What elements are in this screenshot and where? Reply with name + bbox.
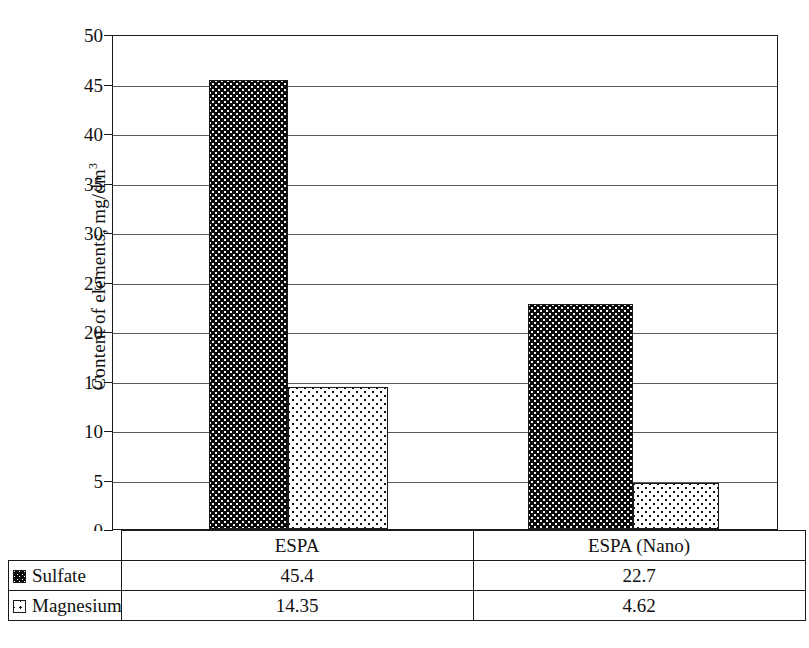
y-axis-tick-label: 50 — [43, 26, 103, 45]
value-sulfate-espa: 45.4 — [121, 561, 473, 591]
y-axis-tick-label: 35 — [43, 174, 103, 193]
data-table: ESPA ESPA (Nano) Sulfate 45.4 22.7 Magne… — [8, 530, 806, 621]
table-row-categories: ESPA ESPA (Nano) — [9, 531, 806, 561]
legend-swatch-magnesium-icon — [13, 600, 26, 613]
y-axis-tick-label: 5 — [43, 471, 103, 490]
legend-label-magnesium: Magnesium — [32, 595, 122, 616]
table-corner-cell — [9, 531, 122, 561]
legend-item-magnesium: Magnesium — [9, 591, 122, 621]
chart-figure: Content of elements, mg/dm3 051015202530… — [0, 0, 809, 648]
bar-sulfate-espa-nano — [528, 304, 633, 529]
y-axis-tick-label: 45 — [43, 75, 103, 94]
legend-swatch-sulfate-icon — [13, 570, 26, 583]
bar-magnesium-espa — [288, 387, 388, 529]
plot-area — [112, 35, 778, 530]
bar-magnesium-espa-nano — [633, 483, 719, 529]
bar-sulfate-espa — [209, 80, 288, 529]
y-axis-tick-label: 15 — [43, 372, 103, 391]
legend-label-sulfate: Sulfate — [32, 565, 86, 586]
y-axis-tick-label: 20 — [43, 323, 103, 342]
value-sulfate-espa-nano: 22.7 — [473, 561, 805, 591]
value-magnesium-espa: 14.35 — [121, 591, 473, 621]
y-axis-tick-label: 30 — [43, 224, 103, 243]
table-row: Sulfate 45.4 22.7 — [9, 561, 806, 591]
y-axis-tick-label: 10 — [43, 422, 103, 441]
category-header-0: ESPA — [121, 531, 473, 561]
category-header-1: ESPA (Nano) — [473, 531, 805, 561]
value-magnesium-espa-nano: 4.62 — [473, 591, 805, 621]
y-axis-title-exponent: 3 — [86, 163, 100, 169]
y-axis-tick-label: 25 — [43, 273, 103, 292]
table-row: Magnesium 14.35 4.62 — [9, 591, 806, 621]
legend-item-sulfate: Sulfate — [9, 561, 122, 591]
y-axis-tick-label: 40 — [43, 125, 103, 144]
